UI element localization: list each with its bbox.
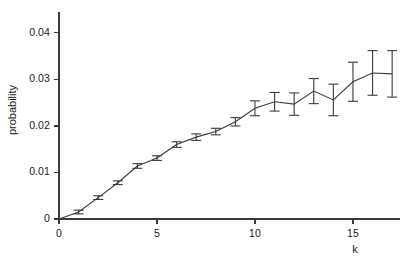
x-tick-label: 5 — [137, 227, 177, 239]
probability-vs-k-chart: 00.010.020.030.04 051015 probability k — [0, 0, 411, 266]
y-axis-label: probability — [6, 74, 18, 146]
error-bars — [74, 51, 398, 214]
y-tick-label: 0.01 — [0, 165, 50, 177]
x-tick-label: 0 — [39, 227, 79, 239]
y-tick-label: 0 — [0, 212, 50, 224]
x-tick-label: 10 — [235, 227, 275, 239]
x-axis-label: k — [345, 243, 365, 255]
x-tick-label: 15 — [333, 227, 373, 239]
y-tick-label: 0.04 — [0, 26, 50, 38]
data-line — [59, 73, 392, 219]
